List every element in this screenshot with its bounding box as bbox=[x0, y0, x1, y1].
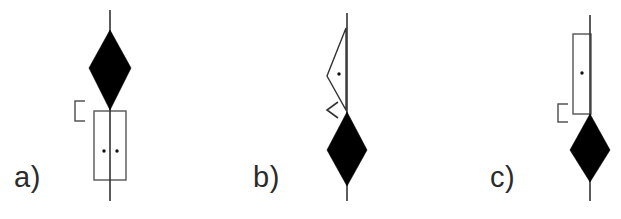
panel-a: a) bbox=[0, 0, 210, 219]
panel-a-label: a) bbox=[14, 163, 41, 192]
panel-b: b) bbox=[210, 0, 420, 219]
figure-canvas: a) b) c) bbox=[0, 0, 621, 219]
panel-c-label: c) bbox=[490, 163, 515, 192]
panel-c: c) bbox=[420, 0, 621, 219]
panel-b-label: b) bbox=[253, 163, 280, 192]
